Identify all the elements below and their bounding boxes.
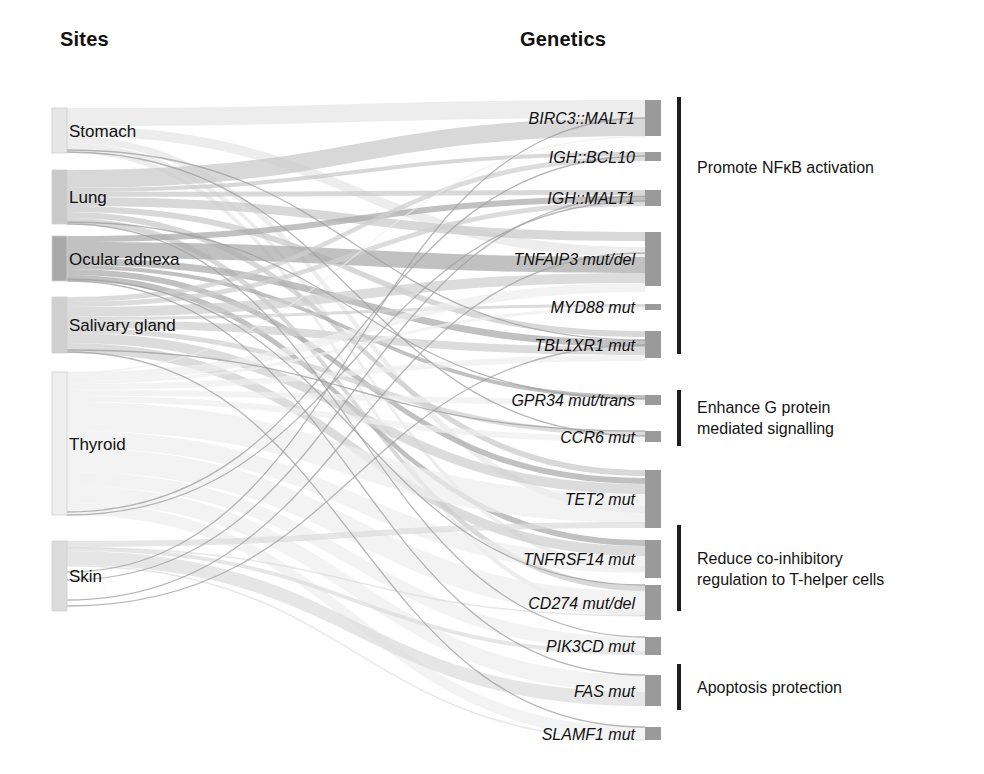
site-node-2[interactable] [52,236,67,281]
gene-node-label: MYD88 mut [551,299,636,316]
site-node-3[interactable] [52,297,67,353]
site-node-label: Ocular adnexa [69,250,180,269]
gene-node-12[interactable] [645,675,661,706]
site-node-1[interactable] [52,170,67,224]
sankey-canvas: StomachLungOcular adnexaSalivary glandTh… [0,0,984,774]
gene-node-4[interactable] [645,304,661,310]
annotation-brackets [677,97,681,710]
site-node-label: Skin [69,567,102,586]
annotation-bracket-1 [677,390,681,446]
gene-node-9[interactable] [645,540,661,578]
gene-node-label: IGH::MALT1 [547,190,635,207]
site-node-label: Salivary gland [69,316,176,335]
gene-node-6[interactable] [645,395,661,405]
gene-node-label: FAS mut [574,683,636,700]
gene-node-5[interactable] [645,331,661,358]
gene-node-label: CD274 mut/del [528,595,635,612]
gene-node-label: CCR6 mut [560,429,635,446]
gene-node-7[interactable] [645,431,661,442]
site-node-0[interactable] [52,108,67,153]
annotation-bracket-2 [677,525,681,611]
annotation-bracket-0 [677,97,681,354]
site-node-5[interactable] [52,541,67,611]
gene-node-label: SLAMF1 mut [542,726,636,743]
annotation-text-0: Promote NFκB activation [697,157,874,178]
gene-node-label: BIRC3::MALT1 [529,110,635,127]
annotation-text-3: Apoptosis protection [697,677,842,698]
gene-node-10[interactable] [645,585,661,620]
site-nodes [52,108,67,611]
gene-node-11[interactable] [645,637,661,655]
annotation-text-2: Reduce co-inhibitory regulation to T-hel… [697,548,884,590]
sankey-figure: Sites Genetics StomachLungOcular adnexaS… [0,0,984,774]
site-node-4[interactable] [52,372,67,515]
gene-node-label: GPR34 mut/trans [511,392,635,409]
gene-node-label: PIK3CD mut [546,638,635,655]
gene-node-label: IGH::BCL10 [549,149,635,166]
gene-node-0[interactable] [645,100,661,136]
gene-node-13[interactable] [645,727,661,740]
site-node-label: Thyroid [69,435,126,454]
gene-node-3[interactable] [645,232,661,286]
gene-node-1[interactable] [645,152,661,161]
gene-nodes [645,100,661,740]
site-node-label: Lung [69,188,107,207]
gene-node-label: TNFAIP3 mut/del [513,251,635,268]
annotation-text-1: Enhance G protein mediated signalling [697,397,834,439]
gene-node-8[interactable] [645,470,661,528]
gene-node-label: TBL1XR1 mut [535,337,636,354]
site-node-label: Stomach [69,122,136,141]
gene-node-label: TNFRSF14 mut [523,551,636,568]
gene-node-2[interactable] [645,190,661,206]
gene-node-label: TET2 mut [565,491,636,508]
annotation-bracket-3 [677,664,681,710]
